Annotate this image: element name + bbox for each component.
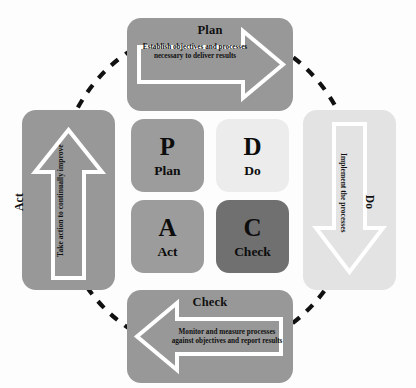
center-word-check: Check (234, 245, 271, 259)
phase-title-check: Check (127, 295, 293, 310)
center-word-act: Act (157, 245, 177, 259)
center-letter-c: C (243, 215, 261, 240)
center-cell-do[interactable]: D Do (216, 119, 289, 192)
center-letter-a: A (158, 215, 176, 240)
phase-title-act: Act (13, 193, 25, 211)
center-word-do: Do (244, 164, 261, 178)
pdca-cycle-diagram: Plan Establish objectives and processes … (0, 0, 416, 388)
arrow-up-icon (22, 110, 115, 290)
center-cell-plan[interactable]: P Plan (131, 119, 204, 192)
phase-title-plan: Plan (127, 23, 293, 38)
phase-description-act: Take action to continually improve (56, 133, 65, 269)
phase-panel-act[interactable]: Act Take action to continually improve (22, 110, 115, 290)
center-cell-act[interactable]: A Act (131, 200, 204, 273)
phase-panel-plan[interactable]: Plan Establish objectives and processes … (127, 18, 293, 111)
center-word-plan: Plan (154, 164, 180, 178)
center-letter-p: P (160, 134, 175, 159)
phase-title-do: Do (364, 195, 376, 209)
center-cell-check[interactable]: C Check (216, 200, 289, 273)
phase-panel-do[interactable]: Do Implement the processes (303, 110, 396, 290)
phase-description-do: Implement the processes (338, 145, 347, 241)
center-letter-d: D (243, 134, 261, 159)
arrow-down-icon (303, 110, 396, 290)
phase-description-plan: Establish objectives and processes neces… (141, 43, 249, 61)
phase-description-check: Monitor and measure processes against ob… (169, 328, 285, 346)
phase-panel-check[interactable]: Check Monitor and measure processes agai… (127, 290, 293, 383)
